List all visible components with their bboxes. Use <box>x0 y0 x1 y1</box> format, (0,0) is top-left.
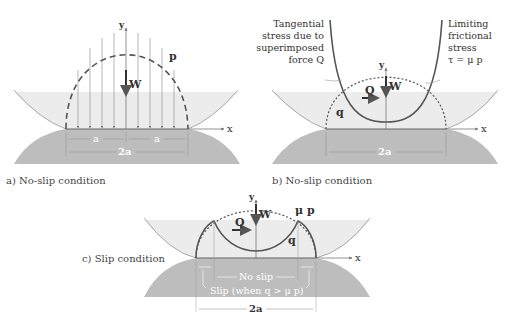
slip-label: Slip (when q > μ p) <box>210 285 303 296</box>
W-label: W <box>388 80 402 93</box>
svg-text:superimposed: superimposed <box>256 42 324 53</box>
contact-mechanics-diagram: x y p W <box>0 0 505 329</box>
svg-text:frictional: frictional <box>448 30 492 41</box>
Q-label: Q <box>235 216 245 229</box>
svg-text:Limiting: Limiting <box>448 18 488 29</box>
Q-label: Q <box>365 84 375 97</box>
annotation-tangential: Tangential stress due to superimposed fo… <box>256 18 324 65</box>
svg-text:stress: stress <box>448 42 477 53</box>
x-axis-label: x <box>481 123 487 134</box>
W-label: W <box>258 208 272 221</box>
a-right-label: a <box>154 133 160 144</box>
y-axis-label: y <box>248 192 255 202</box>
p-label: p <box>169 50 177 63</box>
panel-c: x y W μ p Q q No slip Slip (when <box>82 192 370 314</box>
panel-a: x y p W <box>6 20 240 186</box>
2a-label: 2a <box>378 146 392 157</box>
upper-body <box>272 92 498 129</box>
caption-c: c) Slip condition <box>82 253 165 264</box>
x-axis-label: x <box>227 123 233 134</box>
y-axis-label: y <box>118 20 125 30</box>
2a-label: 2a <box>249 303 263 314</box>
svg-text:stress due to: stress due to <box>262 30 324 41</box>
y-axis-label: y <box>378 60 385 70</box>
q-label: q <box>336 106 344 119</box>
annotation-limiting: Limiting frictional stress τ = μ p <box>448 18 492 65</box>
a-left-label: a <box>93 133 99 144</box>
svg-text:τ = μ p: τ = μ p <box>448 54 483 65</box>
caption-a: a) No-slip condition <box>6 175 106 186</box>
mu-p-label: μ p <box>295 204 315 217</box>
2a-label: 2a <box>118 146 132 157</box>
panel-b: x y W Q q 2a Tangential stress due to su… <box>256 18 498 186</box>
upper-body <box>144 220 370 258</box>
svg-text:force Q: force Q <box>288 54 324 65</box>
no-slip-label: No slip <box>239 271 273 282</box>
caption-b: b) No-slip condition <box>272 175 373 186</box>
svg-text:Tangential: Tangential <box>273 18 324 29</box>
W-label: W <box>128 78 142 91</box>
x-axis-label: x <box>355 252 361 263</box>
q-label: q <box>288 234 296 247</box>
